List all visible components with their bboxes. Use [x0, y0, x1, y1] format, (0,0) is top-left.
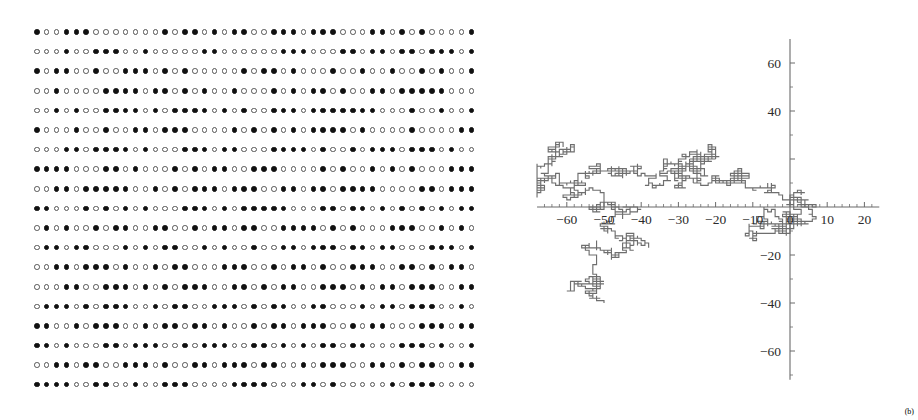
lattice-cell-empty — [221, 65, 231, 85]
lattice-cell-filled — [280, 340, 290, 360]
lattice-cell-filled — [270, 320, 280, 340]
lattice-row — [33, 202, 477, 222]
lattice-cell-filled — [221, 320, 231, 340]
lattice-cell-empty — [398, 300, 408, 320]
lattice-cell-empty — [310, 281, 320, 301]
lattice-cell-filled — [300, 340, 310, 360]
lattice-cell-filled — [408, 379, 418, 399]
lattice-cell-filled — [448, 242, 458, 262]
lattice-cell-filled — [142, 320, 152, 340]
lattice-cell-filled — [339, 124, 349, 144]
lattice-cell-empty — [438, 124, 448, 144]
lattice-cell-empty — [408, 359, 418, 379]
lattice-cell-empty — [221, 281, 231, 301]
lattice-cell-filled — [231, 85, 241, 105]
lattice-cell-filled — [161, 222, 171, 242]
lattice-cell-filled — [349, 340, 359, 360]
lattice-cell-empty — [112, 261, 122, 281]
lattice-cell-filled — [43, 340, 53, 360]
lattice-cell-filled — [112, 222, 122, 242]
lattice-cell-filled — [240, 202, 250, 222]
lattice-cell-empty — [349, 300, 359, 320]
lattice-cell-empty — [260, 104, 270, 124]
lattice-cell-filled — [181, 202, 191, 222]
random-walk-panel: −60−50−40−30−20−10010206040−20−40−60 — [500, 0, 918, 420]
lattice-cell-empty — [102, 242, 112, 262]
corner-mark: (b) — [905, 400, 914, 418]
lattice-cell-filled — [82, 261, 92, 281]
lattice-cell-empty — [201, 300, 211, 320]
lattice-cell-filled — [359, 300, 369, 320]
lattice-cell-filled — [458, 359, 468, 379]
lattice-cell-filled — [408, 261, 418, 281]
lattice-cell-empty — [398, 242, 408, 262]
lattice-cell-filled — [379, 281, 389, 301]
lattice-cell-empty — [122, 26, 132, 46]
lattice-cell-empty — [280, 65, 290, 85]
lattice-cell-empty — [438, 261, 448, 281]
lattice-cell-filled — [310, 379, 320, 399]
lattice-cell-empty — [379, 124, 389, 144]
lattice-cell-empty — [468, 85, 478, 105]
lattice-cell-filled — [250, 320, 260, 340]
lattice-cell-filled — [349, 242, 359, 262]
lattice-cell-filled — [92, 46, 102, 66]
lattice-cell-filled — [369, 46, 379, 66]
lattice-cell-filled — [438, 46, 448, 66]
lattice-cell-empty — [132, 281, 142, 301]
lattice-cell-empty — [389, 46, 399, 66]
lattice-cell-filled — [102, 163, 112, 183]
lattice-cell-filled — [221, 261, 231, 281]
lattice-cell-empty — [438, 183, 448, 203]
lattice-cell-filled — [122, 85, 132, 105]
lattice-cell-empty — [92, 124, 102, 144]
lattice-cell-filled — [458, 124, 468, 144]
lattice-cell-filled — [408, 281, 418, 301]
lattice-cell-filled — [389, 163, 399, 183]
lattice-cell-empty — [359, 379, 369, 399]
lattice-cell-empty — [43, 65, 53, 85]
lattice-cell-empty — [142, 300, 152, 320]
lattice-cell-filled — [53, 242, 63, 262]
lattice-cell-empty — [221, 26, 231, 46]
lattice-cell-filled — [201, 144, 211, 164]
lattice-cell-filled — [171, 261, 181, 281]
lattice-cell-filled — [379, 242, 389, 262]
lattice-cell-empty — [300, 300, 310, 320]
lattice-cell-filled — [221, 300, 231, 320]
lattice-cell-filled — [33, 26, 43, 46]
lattice-cell-empty — [349, 124, 359, 144]
lattice-cell-filled — [73, 26, 83, 46]
lattice-cell-empty — [53, 26, 63, 46]
lattice-cell-empty — [329, 163, 339, 183]
lattice-cell-filled — [300, 222, 310, 242]
lattice-cell-empty — [250, 281, 260, 301]
lattice-cell-filled — [250, 124, 260, 144]
lattice-cell-filled — [43, 300, 53, 320]
lattice-cell-filled — [260, 163, 270, 183]
lattice-cell-empty — [211, 261, 221, 281]
lattice-cell-filled — [181, 261, 191, 281]
x-tick-label: −30 — [668, 212, 689, 227]
lattice-cell-empty — [142, 26, 152, 46]
lattice-cell-filled — [191, 144, 201, 164]
lattice-cell-empty — [329, 144, 339, 164]
lattice-cell-empty — [300, 281, 310, 301]
lattice-cell-empty — [211, 124, 221, 144]
lattice-cell-empty — [171, 26, 181, 46]
lattice-cell-empty — [132, 26, 142, 46]
lattice-cell-filled — [102, 183, 112, 203]
lattice-cell-empty — [132, 320, 142, 340]
lattice-cell-empty — [468, 261, 478, 281]
lattice-cell-empty — [161, 163, 171, 183]
lattice-cell-filled — [152, 340, 162, 360]
lattice-cell-filled — [152, 104, 162, 124]
lattice-cell-empty — [418, 242, 428, 262]
lattice-cell-filled — [458, 183, 468, 203]
lattice-cell-filled — [122, 359, 132, 379]
lattice-cell-empty — [102, 26, 112, 46]
lattice-cell-empty — [319, 46, 329, 66]
lattice-cell-filled — [82, 202, 92, 222]
lattice-cell-empty — [438, 281, 448, 301]
lattice-cell-empty — [339, 202, 349, 222]
